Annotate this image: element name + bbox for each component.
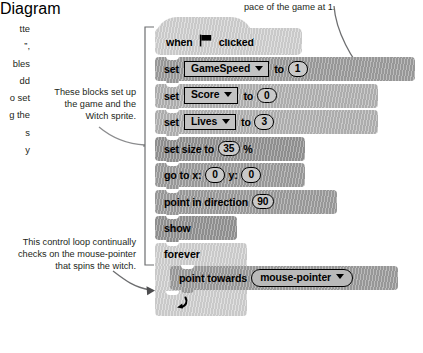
chevron-down-icon (224, 92, 232, 97)
loop-arrow-icon (174, 295, 189, 312)
caption-setup-blocks: These blocks set up the game and the Wit… (42, 86, 136, 122)
leader-line-setup-blocks (98, 126, 148, 148)
block-go-to-xy[interactable]: go to x: 0 y: 0 (155, 163, 305, 187)
value-input-lives[interactable]: 3 (254, 114, 274, 130)
block-show[interactable]: show (155, 216, 237, 240)
set-label: set (164, 90, 179, 102)
when-label: when (166, 36, 193, 48)
variable-name: Lives (191, 116, 217, 127)
chevron-down-icon (222, 119, 230, 124)
value-input-y[interactable]: 0 (241, 167, 261, 183)
block-point-in-direction[interactable]: point in direction 90 (155, 190, 337, 214)
to-label: to (274, 63, 284, 75)
caption-control-loop: This control loop continually checks on … (8, 236, 136, 272)
to-label: to (241, 116, 251, 128)
point-in-direction-label: point in direction (164, 196, 248, 208)
target-name: mouse-pointer (260, 272, 331, 283)
set-label: set (164, 116, 179, 128)
block-set-gamespeed[interactable]: set GameSpeed to 1 (155, 57, 415, 81)
value-input-gamespeed[interactable]: 1 (288, 61, 308, 77)
value-input-score[interactable]: 0 (257, 88, 277, 104)
dropdown-point-towards-target[interactable]: mouse-pointer (251, 269, 353, 287)
chevron-down-icon (336, 274, 344, 279)
block-forever[interactable]: forever point towards mouse-pointer (155, 243, 247, 316)
variable-name: GameSpeed (191, 63, 250, 74)
set-label: set (164, 63, 179, 75)
set-size-to-label: set size to (164, 143, 214, 155)
clicked-label: clicked (219, 36, 254, 48)
forever-label: forever (164, 248, 200, 260)
value-input-direction[interactable]: 90 (252, 194, 274, 210)
block-set-size-to[interactable]: set size to 35 % (155, 137, 305, 161)
forever-left-arm (155, 266, 170, 290)
y-label: y: (228, 169, 237, 181)
block-set-lives[interactable]: set Lives to 3 (155, 110, 378, 134)
variable-dropdown-score[interactable]: Score (184, 87, 238, 104)
cut-off-body-text: tte ”, bles dd o set g the s y (0, 20, 30, 158)
block-point-towards[interactable]: point towards mouse-pointer (170, 266, 398, 290)
forever-header: forever (155, 243, 247, 266)
value-input-size[interactable]: 35 (218, 141, 240, 157)
variable-dropdown-lives[interactable]: Lives (184, 114, 236, 131)
chevron-down-icon (255, 66, 263, 71)
variable-name: Score (191, 89, 219, 100)
forever-body: point towards mouse-pointer (170, 266, 247, 290)
to-label: to (243, 90, 253, 102)
value-input-x[interactable]: 0 (205, 167, 225, 183)
percent-label: % (243, 143, 252, 155)
leader-line-control-loop (112, 270, 158, 296)
forever-footer (155, 292, 247, 316)
go-to-x-label: go to x: (164, 169, 201, 181)
show-label: show (164, 222, 191, 234)
block-set-score[interactable]: set Score to 0 (155, 84, 378, 108)
green-flag-icon (199, 34, 212, 47)
variable-dropdown-gamespeed[interactable]: GameSpeed (184, 61, 269, 78)
caption-game-pace: pace of the game at 1. (244, 1, 356, 13)
scratch-script-stack: when clicked set GameSpeed to 1 set Scor… (155, 28, 415, 318)
block-when-green-flag-clicked[interactable]: when clicked (155, 28, 302, 55)
point-towards-label: point towards (179, 272, 247, 284)
